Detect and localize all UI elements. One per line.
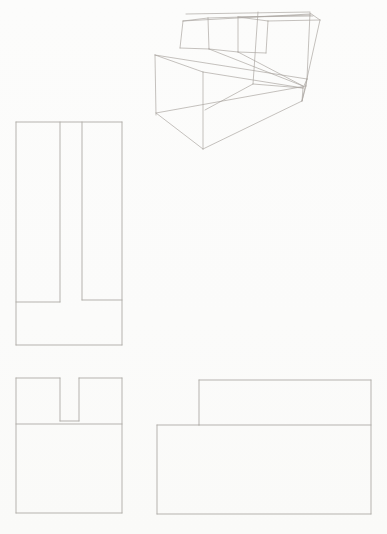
line-segment <box>180 21 183 48</box>
line-segment <box>180 48 209 49</box>
line-segment <box>155 55 156 115</box>
front-projection-view <box>16 378 122 513</box>
line-segment <box>203 101 302 149</box>
line-segment <box>238 52 266 53</box>
line-segment <box>253 12 258 84</box>
line-segment <box>156 113 203 149</box>
line-segment <box>208 18 209 49</box>
line-segment <box>253 84 303 88</box>
technical-drawing-canvas <box>0 0 387 534</box>
line-segment <box>302 20 320 101</box>
top-projection-view <box>16 122 122 345</box>
line-segment <box>238 16 313 17</box>
line-segment <box>238 52 303 86</box>
line-segment <box>186 12 310 14</box>
line-segment <box>155 55 307 79</box>
line-segment <box>266 21 268 53</box>
line-segment <box>310 13 320 20</box>
line-segment <box>155 55 203 72</box>
line-segment <box>156 86 306 113</box>
line-segment <box>307 13 310 79</box>
line-segment <box>268 20 320 21</box>
side-projection-view <box>157 380 371 514</box>
line-segment <box>183 14 310 21</box>
drawing-sheet <box>0 0 387 534</box>
pictorial-wireframe-view <box>155 12 320 149</box>
